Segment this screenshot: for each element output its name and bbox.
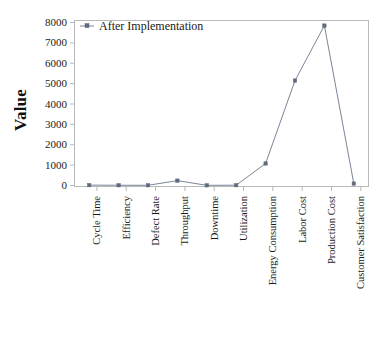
- y-tick-label: 1000: [45, 159, 68, 171]
- x-tick-label: Energy Consumption: [267, 195, 278, 285]
- x-axis-ticks: [97, 187, 361, 192]
- legend-entry-label: After Implementation: [99, 19, 203, 33]
- x-tick-label: Labor Cost: [297, 196, 308, 243]
- series-data-point: [205, 184, 208, 187]
- x-tick-label: Utilization: [238, 195, 249, 241]
- series-data-point: [146, 184, 149, 187]
- y-tick-label: 6000: [45, 57, 68, 69]
- y-tick-label: 2000: [45, 138, 68, 150]
- x-axis-labels: Cycle Time Efficiency Defect Rate Throug…: [91, 195, 366, 289]
- legend: After Implementation: [80, 19, 203, 33]
- plot-frame: [75, 21, 369, 187]
- series-data-point: [352, 182, 355, 185]
- y-tick-label: 4000: [45, 98, 68, 110]
- series-data-point: [264, 162, 267, 165]
- series-line: [89, 26, 354, 186]
- series-data-point: [88, 183, 91, 186]
- chart-container: Value 8000 7000 6000 5000 4000 3000 2000…: [0, 0, 385, 338]
- y-tick-label: 8000: [45, 16, 68, 28]
- series-data-point: [176, 179, 179, 182]
- line-chart: Value 8000 7000 6000 5000 4000 3000 2000…: [0, 0, 385, 338]
- series-markers: [88, 24, 356, 187]
- x-tick-label: Customer Satisfaction: [355, 195, 366, 289]
- series-data-point: [235, 183, 238, 186]
- x-tick-label: Cycle Time: [91, 196, 102, 245]
- y-tick-label: 7000: [45, 36, 68, 48]
- series-after-implementation: [88, 24, 356, 187]
- series-data-point: [323, 24, 326, 27]
- series-data-point: [117, 184, 120, 187]
- x-tick-label: Throughput: [179, 196, 190, 246]
- y-tick-label: 3000: [45, 118, 68, 130]
- y-axis-title: Value: [11, 89, 30, 131]
- x-tick-label: Efficiency: [121, 195, 132, 239]
- x-tick-label: Defect Rate: [150, 196, 161, 246]
- y-tick-label: 5000: [45, 77, 68, 89]
- x-tick-label: Production Cost: [326, 196, 337, 264]
- y-axis-title-text: Value: [11, 89, 30, 131]
- series-data-point: [293, 79, 296, 82]
- y-axis-ticks: 8000 7000 6000 5000 4000 3000 2000 1000 …: [45, 16, 75, 191]
- x-tick-label: Downtime: [209, 196, 220, 241]
- legend-marker-icon: [85, 24, 89, 28]
- y-tick-label: 0: [62, 179, 68, 191]
